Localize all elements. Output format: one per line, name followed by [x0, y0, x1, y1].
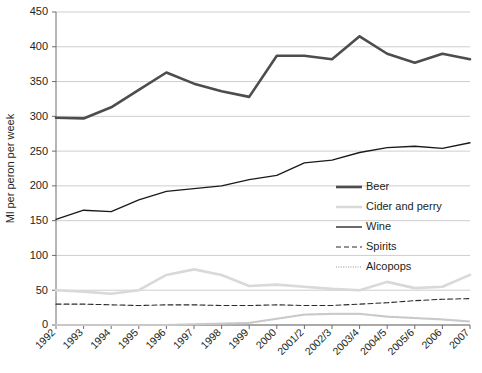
y-tick-label: 250	[30, 145, 48, 157]
x-tick-label: 1996	[143, 326, 168, 351]
x-tick-label: 2004/5	[357, 326, 388, 357]
chart-container: 050100150200250300350400450 199219931994…	[0, 0, 482, 373]
series-line-alcopops	[56, 314, 470, 325]
legend-label-beer: Beer	[366, 180, 390, 192]
legend-label-alcopops: Alcopops	[366, 260, 412, 272]
gridlines-group	[56, 12, 470, 325]
x-tick-label: 1998	[198, 326, 223, 351]
data-series-group	[56, 36, 470, 325]
x-tick-label: 1999	[226, 326, 251, 351]
x-tick-label: 2001/2	[275, 326, 306, 357]
y-tick-label: 350	[30, 75, 48, 87]
y-tick-label: 50	[36, 284, 48, 296]
x-tick-label: 2002/3	[302, 326, 333, 357]
y-axis-title: Ml per peron per week	[4, 113, 16, 223]
chart-legend: BeerCider and perryWineSpiritsAlcopops	[336, 180, 442, 272]
legend-label-wine: Wine	[366, 220, 391, 232]
y-tick-label: 100	[30, 249, 48, 261]
x-tick-label: 1997	[170, 326, 195, 351]
x-tick-label: 1992	[32, 326, 57, 351]
x-tick-label: 2000	[253, 326, 278, 351]
x-tick-label: 1995	[115, 326, 140, 351]
line-chart: 050100150200250300350400450 199219931994…	[0, 0, 482, 373]
y-tick-label: 400	[30, 40, 48, 52]
x-tick-label: 2003/4	[330, 326, 361, 357]
series-line-spirits	[56, 299, 470, 306]
x-tick-label: 1994	[88, 326, 113, 351]
legend-label-spirits: Spirits	[366, 240, 397, 252]
x-axis-ticks-group: 1992199319941995199619971998199920002001…	[32, 325, 471, 357]
x-tick-label: 2007	[446, 326, 471, 351]
x-tick-label: 1993	[60, 326, 85, 351]
x-tick-label: 2006	[419, 326, 444, 351]
series-line-beer	[56, 36, 470, 118]
y-tick-label: 300	[30, 110, 48, 122]
y-tick-label: 450	[30, 5, 48, 17]
y-tick-label: 200	[30, 179, 48, 191]
y-tick-label: 150	[30, 214, 48, 226]
x-tick-label: 2005/6	[385, 326, 416, 357]
y-axis-ticks-group: 050100150200250300350400450	[30, 5, 56, 330]
legend-label-cider-and-perry: Cider and perry	[366, 200, 442, 212]
